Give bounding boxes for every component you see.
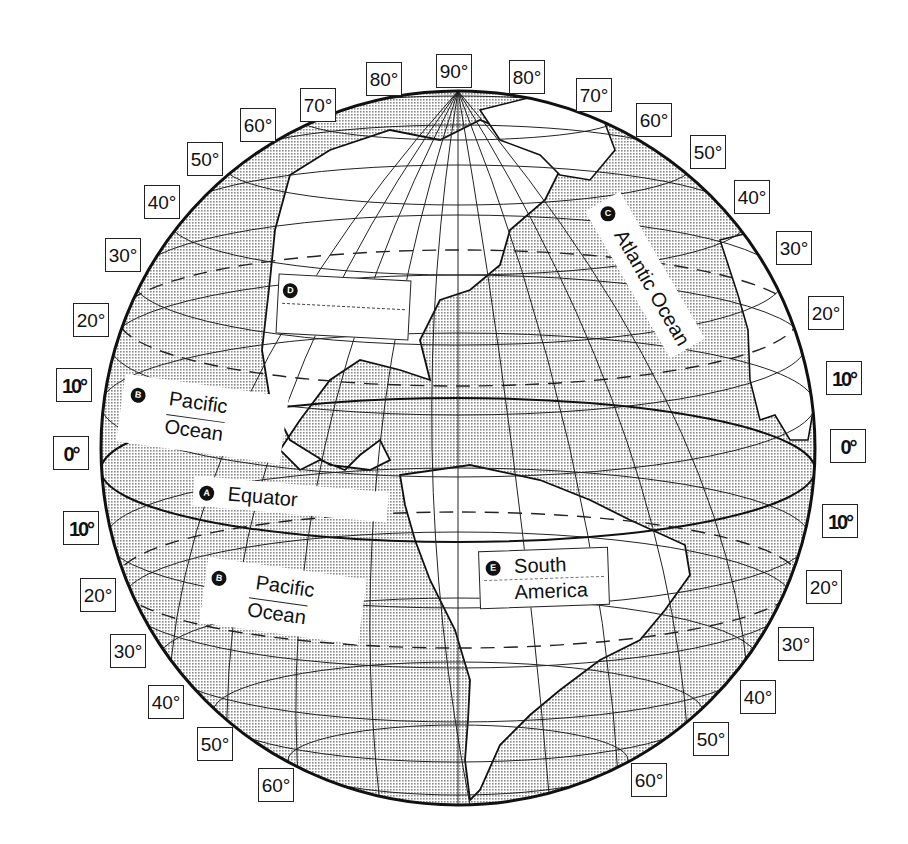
marker-e-icon: E bbox=[485, 561, 501, 577]
latitude-label-r20n: 20° bbox=[808, 296, 844, 330]
pacific-line2: Ocean bbox=[163, 414, 225, 445]
latitude-label-l40n: 40° bbox=[144, 185, 180, 219]
latitude-label-r30n: 30° bbox=[776, 231, 812, 265]
latitude-label-r40s: 40° bbox=[740, 680, 776, 714]
latitude-label-r0: 0° bbox=[830, 429, 866, 463]
latitude-label-l10n: 10° bbox=[56, 368, 92, 402]
latitude-label-l20s: 20° bbox=[80, 578, 116, 612]
marker-a-icon: A bbox=[199, 485, 215, 501]
callout-south-america: E South America bbox=[478, 547, 610, 610]
latitude-label-t80r: 80° bbox=[509, 60, 545, 94]
latitude-label-r10s: 10° bbox=[822, 504, 858, 538]
latitude-label-l0: 0° bbox=[53, 436, 89, 470]
latitude-label-l10s: 10° bbox=[63, 511, 99, 545]
latitude-label-r60n: 60° bbox=[636, 103, 672, 137]
latitude-label-l60s: 60° bbox=[258, 768, 294, 802]
latitude-label-t80l: 80° bbox=[366, 62, 402, 96]
marker-c-icon: C bbox=[600, 206, 615, 221]
latitude-label-r50s: 50° bbox=[693, 722, 729, 756]
pacific-line1: Pacific bbox=[254, 571, 315, 601]
callout-blank-d[interactable]: D bbox=[276, 274, 412, 341]
latitude-label-l60n: 60° bbox=[240, 108, 276, 142]
latitude-label-l30n: 30° bbox=[105, 238, 141, 272]
latitude-label-l50n: 50° bbox=[187, 142, 223, 176]
latitude-label-r30s: 30° bbox=[778, 627, 814, 661]
latitude-label-r20s: 20° bbox=[806, 570, 842, 604]
latitude-label-r60s: 60° bbox=[631, 763, 667, 797]
latitude-label-r70n: 70° bbox=[576, 78, 612, 112]
south-america-line2: America bbox=[514, 578, 588, 603]
latitude-label-l20n: 20° bbox=[73, 303, 109, 337]
latitude-label-r50n: 50° bbox=[690, 135, 726, 169]
latitude-label-t90: 90° bbox=[436, 54, 472, 88]
equator-label: Equator bbox=[227, 483, 299, 511]
globe-diagram: 70°60°50°40°30°20°10°0°10°20°30°40°50°60… bbox=[0, 0, 908, 844]
latitude-label-r40n: 40° bbox=[734, 180, 770, 214]
marker-b-icon: B bbox=[130, 387, 147, 404]
latitude-label-l40s: 40° bbox=[148, 685, 184, 719]
blank-answer-line[interactable] bbox=[282, 303, 405, 310]
pacific-line1: Pacific bbox=[168, 387, 229, 417]
marker-b-icon: B bbox=[211, 570, 228, 587]
latitude-label-l70n: 70° bbox=[300, 88, 336, 122]
latitude-label-l30s: 30° bbox=[110, 634, 146, 668]
pacific-line2: Ocean bbox=[246, 597, 308, 628]
latitude-label-l50s: 50° bbox=[197, 727, 233, 761]
south-america-line1: South bbox=[514, 553, 567, 577]
latitude-label-r10n: 10° bbox=[826, 361, 862, 395]
marker-d-icon: D bbox=[282, 283, 298, 299]
